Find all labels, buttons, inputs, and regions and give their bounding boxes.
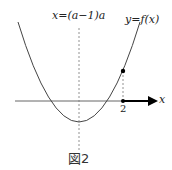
- figure-caption: 図2: [68, 148, 89, 167]
- x-axis-label: x: [159, 93, 165, 106]
- point-f2: [121, 69, 125, 73]
- axis-of-symmetry-label: x=(a−1)a: [52, 9, 105, 22]
- arrow-head-icon: [148, 96, 158, 106]
- figure-2: x=(a−1)a y=f(x) x 2 図2: [0, 0, 172, 170]
- curve-label: y=f(x): [125, 13, 159, 26]
- tick-2: 2: [120, 103, 126, 114]
